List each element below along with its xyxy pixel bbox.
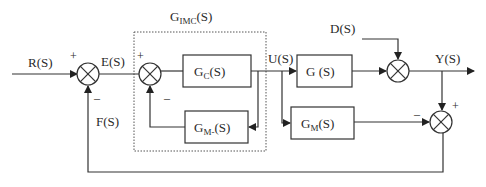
- disturbance-label: D(S): [330, 21, 355, 36]
- sum2-plus-sign: +: [137, 49, 144, 63]
- plant-label: G (S): [306, 64, 335, 79]
- sum4-minus-sign: –: [413, 107, 421, 121]
- error-label: E(S): [101, 54, 125, 69]
- summing-junction-3: [387, 60, 409, 82]
- sum1-plus-sign: +: [70, 49, 77, 63]
- imc-block-diagram: GIMC(S) R(S) + – E(S) + – GC(S) U(S) GM-…: [0, 0, 486, 187]
- feedback-label: F(S): [96, 114, 119, 129]
- controller-label: GC(S): [194, 64, 225, 81]
- control-label: U(S): [268, 51, 293, 66]
- sum1-minus-sign: –: [93, 91, 101, 105]
- model-label: GM(S): [301, 116, 334, 133]
- model-feed-arrow: [282, 71, 290, 123]
- imc-group-label: GIMC(S): [170, 9, 212, 26]
- output-label: Y(S): [435, 51, 460, 66]
- summing-junction-2: [139, 63, 161, 85]
- summing-junction-4: [430, 111, 452, 133]
- sum4-plus-sign: +: [452, 99, 459, 113]
- sum2-minus-sign: –: [163, 91, 171, 105]
- disturbance-arrow: [362, 39, 398, 59]
- reference-label: R(S): [28, 55, 53, 70]
- summing-junction-1: [77, 63, 99, 85]
